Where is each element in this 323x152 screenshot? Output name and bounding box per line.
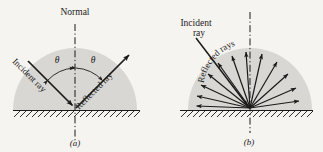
panel-a: Normal θ θ Incident ray Reflected ray (a… [11, 7, 140, 148]
incident-ray-label-b-line2: ray [193, 28, 205, 38]
theta-reflection-label-a: θ [91, 55, 96, 65]
panel-b: Incident ray Reflected rays (b) [180, 12, 313, 147]
caption-a: (a) [70, 138, 81, 148]
surface-hatching-a [14, 111, 140, 117]
incident-ray-label-b-line1: Incident [180, 18, 211, 28]
surface-hatching-b [181, 111, 313, 117]
normal-label-a: Normal [60, 7, 89, 17]
caption-b: (b) [244, 137, 255, 147]
figure-svg: Normal θ θ Incident ray Reflected ray (a… [0, 0, 323, 152]
theta-incidence-label-a: θ [55, 55, 60, 65]
reflection-figure: Normal θ θ Incident ray Reflected ray (a… [0, 0, 323, 152]
